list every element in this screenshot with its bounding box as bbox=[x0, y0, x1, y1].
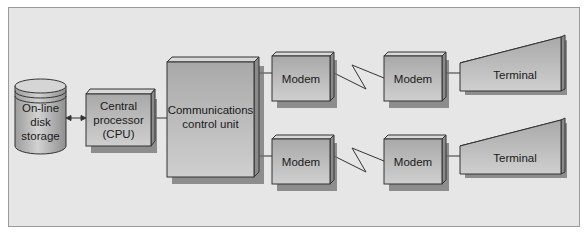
modem-bottom-2-label: Modem bbox=[384, 139, 442, 184]
modem-bottom-1-label: Modem bbox=[272, 139, 330, 184]
ccu-label-line-2: control unit bbox=[182, 117, 238, 131]
ccu-label: Communications control unit bbox=[164, 100, 257, 134]
terminal-bottom-label: Terminal bbox=[470, 143, 560, 173]
terminal-top-label: Terminal bbox=[470, 60, 560, 90]
ccu-label-line-1: Communications bbox=[168, 103, 254, 117]
lightning-link-top bbox=[332, 65, 384, 89]
disk-label-line-2: disk bbox=[30, 115, 50, 129]
cpu-label-line-1: Central bbox=[100, 99, 137, 113]
modem-top-2-label: Modem bbox=[384, 56, 442, 101]
cpu-label-line-2: processor bbox=[93, 113, 144, 127]
lightning-link-bottom bbox=[332, 148, 384, 172]
cpu-label-line-3: (CPU) bbox=[103, 127, 135, 141]
modem-top-1-label: Modem bbox=[272, 56, 330, 101]
arrowhead-left-icon bbox=[66, 116, 71, 121]
disk-label-line-3: storage bbox=[21, 129, 59, 143]
disk-label-line-1: On-line bbox=[22, 101, 59, 115]
disk-label: On-line disk storage bbox=[15, 97, 66, 147]
cpu-label: Central processor (CPU) bbox=[86, 96, 151, 144]
